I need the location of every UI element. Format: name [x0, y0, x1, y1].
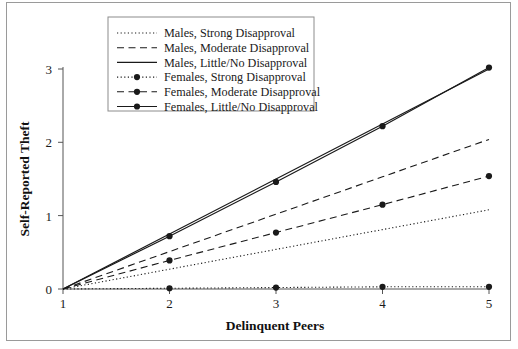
y-tick-label-3: 3 — [46, 62, 53, 77]
data-point-marker — [273, 179, 279, 185]
series-line — [63, 139, 489, 289]
figure-frame: 3 2 1 0 1 2 3 4 5 Delinquent Peers Self-… — [6, 2, 511, 341]
series-4 — [63, 173, 492, 289]
series-3 — [63, 284, 492, 292]
data-point-marker — [379, 123, 385, 129]
data-point-marker — [379, 284, 385, 290]
data-point-marker — [379, 202, 385, 208]
data-point-marker — [166, 233, 172, 239]
legend-label: Females, Moderate Disapproval — [164, 85, 321, 99]
legend-label: Females, Strong Disapproval — [164, 70, 306, 84]
legend-swatch-marker — [134, 74, 140, 80]
y-tick-label-1: 1 — [46, 209, 53, 224]
chart-legend: Males, Strong DisapprovalMales, Moderate… — [108, 17, 321, 114]
legend-label: Males, Little/No Disapproval — [164, 56, 308, 70]
x-tick-label-5: 5 — [486, 296, 493, 311]
series-line — [63, 210, 489, 289]
legend-swatch-marker — [134, 103, 140, 109]
data-point-marker — [166, 285, 172, 291]
x-tick-label-2: 2 — [166, 296, 173, 311]
data-point-marker — [486, 64, 492, 70]
legend-label: Males, Strong Disapproval — [164, 26, 296, 40]
legend-swatch-marker — [134, 89, 140, 95]
data-point-marker — [273, 284, 279, 290]
y-tick-group: 3 2 1 0 — [46, 62, 64, 297]
y-tick-label-2: 2 — [46, 135, 53, 150]
y-tick-label-0: 0 — [46, 282, 53, 297]
data-point-marker — [166, 257, 172, 263]
x-tick-label-3: 3 — [273, 296, 280, 311]
x-tick-label-4: 4 — [379, 296, 386, 311]
x-tick-group: 1 2 3 4 5 — [60, 289, 493, 311]
x-tick-label-1: 1 — [60, 296, 67, 311]
series-0 — [63, 210, 489, 289]
x-axis-title: Delinquent Peers — [226, 318, 325, 333]
data-point-marker — [273, 229, 279, 235]
legend-label: Females, Little/No Disapproval — [164, 100, 319, 114]
y-axis-title: Self-Reported Theft — [17, 121, 32, 236]
data-point-marker — [486, 284, 492, 290]
chart-canvas: 3 2 1 0 1 2 3 4 5 Delinquent Peers Self-… — [7, 3, 510, 340]
series-1 — [63, 139, 489, 289]
legend-label: Males, Moderate Disapproval — [164, 41, 310, 55]
data-point-marker — [486, 173, 492, 179]
